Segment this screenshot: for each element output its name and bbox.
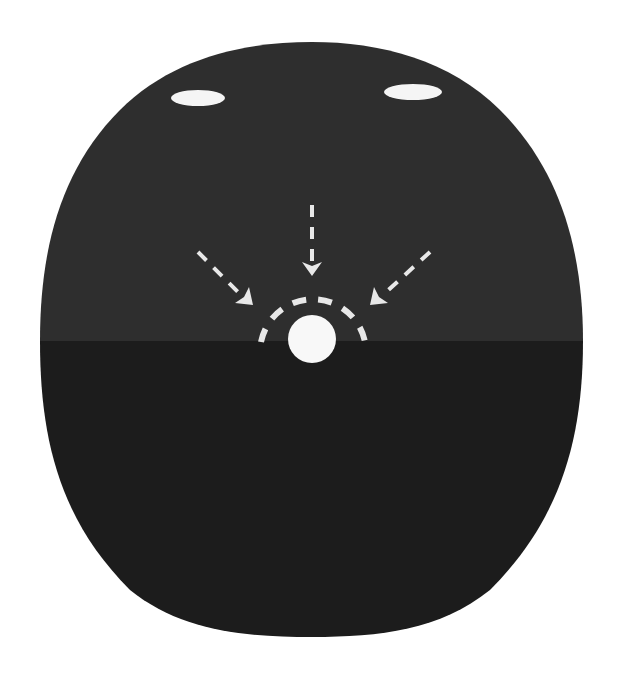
center-dot [288,315,336,363]
left-ellipse-marker [171,90,225,106]
lower-region [0,341,621,674]
right-ellipse-marker [384,84,442,100]
diagram-canvas [0,0,621,674]
upper-region [0,0,621,341]
